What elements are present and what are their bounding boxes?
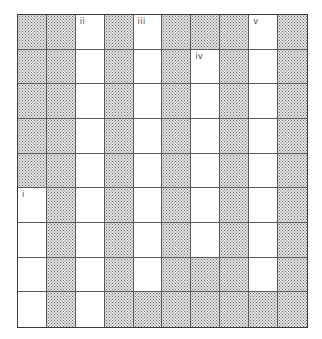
shaded-cell — [162, 154, 191, 189]
shaded-cell — [18, 119, 47, 154]
white-cell — [191, 84, 220, 119]
white-cell — [134, 154, 163, 189]
shaded-cell — [249, 292, 278, 327]
shaded-cell — [47, 223, 76, 258]
shaded-cell — [220, 154, 249, 189]
shaded-cell — [220, 119, 249, 154]
shaded-cell — [47, 50, 76, 85]
shaded-cell — [18, 154, 47, 189]
shaded-cell — [47, 258, 76, 293]
shaded-cell — [162, 15, 191, 50]
shaded-cell — [162, 119, 191, 154]
shaded-cell — [47, 154, 76, 189]
shaded-cell — [162, 188, 191, 223]
shaded-cell — [220, 292, 249, 327]
white-cell — [249, 258, 278, 293]
shaded-cell — [278, 119, 307, 154]
path-grid: iiiiivivi — [17, 14, 308, 328]
shaded-cell — [220, 84, 249, 119]
white-cell — [76, 188, 105, 223]
white-cell — [18, 223, 47, 258]
path-label: v — [253, 18, 258, 26]
white-cell — [191, 154, 220, 189]
white-cell — [191, 188, 220, 223]
white-cell — [76, 84, 105, 119]
white-cell: iii — [134, 15, 163, 50]
white-cell — [249, 223, 278, 258]
white-cell: iv — [191, 50, 220, 85]
shaded-cell — [220, 223, 249, 258]
shaded-cell — [105, 292, 134, 327]
shaded-cell — [191, 15, 220, 50]
shaded-cell — [278, 223, 307, 258]
white-cell — [76, 223, 105, 258]
shaded-cell — [47, 15, 76, 50]
shaded-cell — [105, 119, 134, 154]
shaded-cell — [105, 223, 134, 258]
shaded-cell — [105, 154, 134, 189]
white-cell: v — [249, 15, 278, 50]
white-cell: i — [18, 188, 47, 223]
shaded-cell — [278, 188, 307, 223]
path-label: iv — [195, 53, 203, 61]
shaded-cell — [162, 50, 191, 85]
white-cell — [134, 84, 163, 119]
white-cell — [18, 258, 47, 293]
shaded-cell — [162, 84, 191, 119]
white-cell — [249, 84, 278, 119]
shaded-cell — [220, 258, 249, 293]
shaded-cell — [191, 292, 220, 327]
white-cell — [249, 50, 278, 85]
shaded-cell — [105, 258, 134, 293]
white-cell: ii — [76, 15, 105, 50]
shaded-cell — [47, 84, 76, 119]
shaded-cell — [47, 119, 76, 154]
white-cell — [249, 119, 278, 154]
shaded-cell — [162, 223, 191, 258]
shaded-cell — [278, 154, 307, 189]
shaded-cell — [278, 258, 307, 293]
shaded-cell — [105, 188, 134, 223]
white-cell — [76, 154, 105, 189]
white-cell — [18, 292, 47, 327]
path-label: i — [22, 191, 25, 199]
shaded-cell — [220, 188, 249, 223]
shaded-cell — [18, 50, 47, 85]
white-cell — [191, 223, 220, 258]
white-cell — [76, 258, 105, 293]
shaded-cell — [220, 50, 249, 85]
path-label: ii — [80, 18, 85, 26]
shaded-cell — [134, 292, 163, 327]
path-label: iii — [138, 18, 146, 26]
white-cell — [249, 154, 278, 189]
shaded-cell — [278, 15, 307, 50]
shaded-cell — [47, 188, 76, 223]
shaded-cell — [105, 50, 134, 85]
white-cell — [134, 223, 163, 258]
white-cell — [134, 50, 163, 85]
shaded-cell — [105, 15, 134, 50]
shaded-cell — [162, 292, 191, 327]
shaded-cell — [18, 15, 47, 50]
white-cell — [134, 119, 163, 154]
white-cell — [76, 119, 105, 154]
shaded-cell — [162, 258, 191, 293]
shaded-cell — [220, 15, 249, 50]
shaded-cell — [278, 292, 307, 327]
shaded-cell — [278, 50, 307, 85]
white-cell — [134, 188, 163, 223]
shaded-cell — [191, 258, 220, 293]
white-cell — [76, 292, 105, 327]
shaded-cell — [47, 292, 76, 327]
shaded-cell — [105, 84, 134, 119]
white-cell — [134, 258, 163, 293]
shaded-cell — [18, 84, 47, 119]
shaded-cell — [278, 84, 307, 119]
white-cell — [76, 50, 105, 85]
white-cell — [191, 119, 220, 154]
white-cell — [249, 188, 278, 223]
